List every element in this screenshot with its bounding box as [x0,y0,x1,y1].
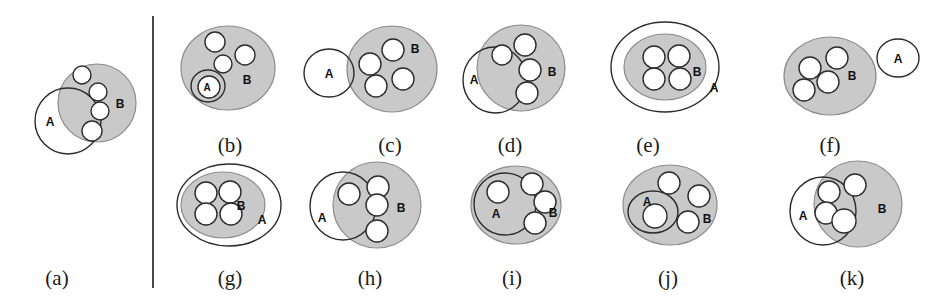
set-label-b-a: B [116,97,125,111]
venn-diagram-figure: BA(a)BA(b)BA(c)BA(d)BA(e)BA(f)BA(g)BA(h)… [0,0,946,305]
item-g-3 [195,203,217,225]
panel-caption-h: (h) [358,266,383,290]
set-label-a-f: A [894,52,903,66]
item-d-1 [492,45,512,65]
item-f-3 [817,71,839,93]
set-label-a-a: A [46,115,55,129]
item-k-2 [844,174,866,196]
panel-caption-a: (a) [45,266,68,290]
item-a-2 [89,83,107,101]
set-label-a-e: A [710,81,719,95]
panel-caption-j: (j) [658,266,678,290]
set-label-b-h: B [397,201,406,215]
item-a-1 [73,66,91,84]
item-d-3 [519,59,541,81]
item-b-1 [205,32,225,52]
set-label-b-e: B [693,65,702,79]
item-a-3 [91,102,109,120]
set-label-b-f: B [848,69,857,83]
item-e-4 [669,68,691,90]
item-h-4 [366,220,388,242]
panel-caption-i: (i) [502,266,522,290]
set-label-a-b: A [203,82,210,93]
set-label-b-g: B [237,199,246,213]
item-i-4 [524,212,546,234]
item-c-3 [365,75,387,97]
figure-root: BA(a)BA(b)BA(c)BA(d)BA(e)BA(f)BA(g)BA(h)… [0,0,946,305]
set-label-a-d: A [470,73,479,87]
item-j-1 [658,172,680,194]
set-label-a-k: A [799,209,808,223]
set-label-b-b: B [243,73,252,87]
panel-caption-b: (b) [218,133,243,157]
set-label-a-c: A [325,67,334,81]
item-j-4 [677,211,699,233]
item-c-1 [382,39,404,61]
item-j-2 [688,185,710,207]
item-c-4 [392,68,414,90]
item-g-1 [195,182,217,204]
item-f-4 [793,79,815,101]
region-b-g [181,172,265,238]
panel-caption-f: (f) [820,133,841,157]
item-e-1 [643,46,665,68]
set-label-a-g: A [258,213,267,227]
item-k-1 [818,181,840,203]
item-a-4 [82,121,102,141]
item-f-1 [826,47,848,69]
item-d-2 [514,34,536,56]
set-label-a-h: A [318,211,327,225]
set-label-b-i: B [549,206,558,220]
set-label-b-d: B [548,65,557,79]
item-e-2 [668,45,690,67]
set-label-a-j: A [643,195,652,209]
set-label-b-k: B [878,202,887,216]
item-f-2 [799,57,821,79]
set-label-b-c: B [411,42,420,56]
item-d-4 [516,82,538,104]
item-e-3 [643,68,665,90]
panel-caption-g: (g) [218,266,243,290]
item-h-3 [366,194,388,216]
item-b-3 [214,55,232,73]
item-i-1 [487,181,509,203]
panel-caption-k: (k) [840,266,865,290]
panel-caption-c: (c) [378,133,401,157]
panel-caption-d: (d) [498,133,523,157]
panel-caption-e: (e) [636,133,659,157]
item-b-2 [235,45,255,65]
item-k-4 [832,209,856,233]
item-h-1 [338,183,360,205]
item-c-2 [359,53,381,75]
set-label-a-i: A [492,207,501,221]
set-label-b-j: B [703,212,712,226]
